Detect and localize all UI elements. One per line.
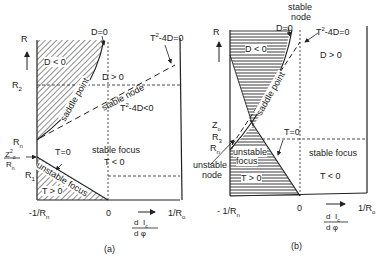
- panel-a: [4, 36, 182, 228]
- dphi-den-a: d φ: [134, 229, 146, 239]
- d-zero-label-a: D=0: [91, 27, 108, 37]
- y-axis-label-b: R: [213, 27, 220, 37]
- d-positive-label-b: D > 0: [320, 50, 342, 60]
- stable-node-bottom-b: node: [291, 12, 311, 22]
- d-negative-label-a: D < 0: [44, 57, 66, 67]
- x-zero-label-b: 0: [297, 203, 302, 213]
- saddle-region-a: [37, 40, 104, 140]
- stable-focus-label-b: stable focus: [309, 148, 357, 158]
- t-zero-label-a: T=0: [55, 147, 71, 157]
- dphi-den-b: d φ: [326, 223, 338, 233]
- r2-tick-a: R2: [12, 80, 22, 94]
- t2-4d-zero-label-b: T2-4D=0: [316, 24, 350, 37]
- t-negative-label-b: T < 0: [320, 171, 341, 181]
- x-left-label-b: - 1/Rn: [217, 206, 240, 220]
- t-negative-label-a: T < 0: [104, 157, 125, 167]
- d-zero-label-b: D=0: [276, 23, 293, 33]
- x-zero-label-a: 0: [106, 208, 111, 218]
- caption-b: (b): [291, 241, 302, 251]
- d-positive-label-a: D > 0: [102, 72, 124, 82]
- r1-tick-a: R1: [25, 170, 35, 184]
- caption-a: (a): [104, 244, 115, 254]
- rn-tick-b: Rn: [210, 143, 220, 157]
- stable-focus-label-a: stable focus: [92, 145, 140, 155]
- rn-den-a: Rn: [6, 160, 15, 173]
- t-positive-label-a: T > 0: [42, 186, 63, 196]
- unstable-focus-2-b: focus: [236, 156, 258, 166]
- x-right-label-a: 1/Ro: [168, 208, 185, 222]
- d-negative-label-b: D < 0: [245, 44, 267, 54]
- x-left-label-a: -1/Rn: [29, 208, 49, 222]
- panel-b: [210, 26, 367, 222]
- t-positive-label-b: T > 0: [241, 173, 262, 183]
- t-zero-label-b: T=0: [284, 127, 300, 137]
- stable-node-top-b: stable: [288, 2, 312, 12]
- t2-4d-zero-label-a: T2-4D=0: [150, 30, 184, 43]
- t2-4d-negative-label-a: T2-4D<0: [120, 100, 154, 113]
- unstable-node-2-b: node: [202, 170, 222, 180]
- x-right-label-b: 1/Ro: [358, 203, 375, 217]
- y-axis-label-a: R: [21, 34, 28, 44]
- unstable-node-1-b: unstable: [193, 160, 227, 170]
